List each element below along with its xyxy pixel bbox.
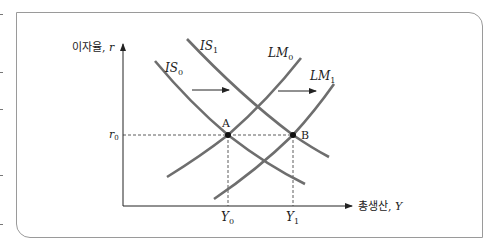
y0-tick-label: Y0: [221, 210, 234, 226]
lm0-label: LM0: [267, 46, 293, 62]
x-axis-title: 총생산, Y: [358, 200, 404, 213]
point-b-label: B: [301, 129, 309, 142]
y1-tick-label: Y1: [286, 210, 299, 226]
lm0-curve: [167, 58, 301, 177]
point-a-label: A: [221, 117, 231, 130]
is0-label: IS0: [164, 61, 183, 77]
islm-chart: A B IS0 IS1 LM0 LM1 r0 Y0 Y1 이자율, r 총생산,…: [0, 0, 499, 251]
is1-label: IS1: [199, 39, 218, 55]
point-b-dot: [290, 132, 296, 138]
lm1-label: LM1: [309, 69, 335, 85]
lm1-curve: [214, 84, 334, 199]
point-a-dot: [225, 132, 231, 138]
y-axis-title: 이자율, r: [72, 41, 115, 54]
r0-tick-label: r0: [109, 128, 119, 142]
